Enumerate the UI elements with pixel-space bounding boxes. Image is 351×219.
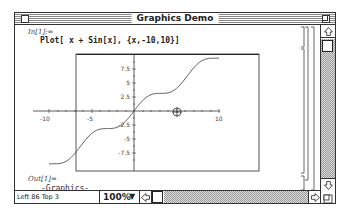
output-cell-bracket	[301, 176, 304, 190]
resize-grip-icon[interactable]	[320, 190, 335, 203]
output-label: Out[1]=	[28, 175, 57, 183]
tick-labels: -10 -5 10 7.5 5 2.5 -2.5 -5 -7.5	[40, 65, 223, 156]
zoom-level[interactable]: 100%	[103, 191, 131, 203]
arrow-up-icon[interactable]	[321, 25, 335, 38]
arrow-left-icon[interactable]	[140, 191, 152, 203]
y-tick-neg7.5: -7.5	[118, 149, 130, 156]
y-tick-5: 5	[126, 79, 130, 86]
crosshair-cursor-icon	[172, 107, 182, 117]
y-tick-neg5: -5	[124, 135, 130, 142]
x-tick-neg5: -5	[87, 115, 93, 122]
horizontal-scroll-track[interactable]	[164, 191, 308, 203]
close-box-icon[interactable]	[21, 15, 29, 23]
vertical-scroll-track[interactable]	[321, 39, 335, 178]
plot-graphic[interactable]: -10 -5 10 7.5 5 2.5 -2.5 -5 -7.5	[15, 25, 320, 192]
graphics-demo-window: Graphics Demo In[1]:= Plot[ x + Sin[x], …	[14, 12, 336, 204]
vertical-scroll-thumb[interactable]	[322, 40, 333, 52]
status-bar: Left 86 Top 3 100% ▼	[15, 190, 335, 203]
y-tick-7.5: 7.5	[120, 65, 130, 72]
plot-frame	[76, 54, 259, 171]
y-tick-2.5: 2.5	[120, 93, 130, 100]
input-cell-bracket	[301, 27, 304, 47]
window-title: Graphics Demo	[132, 13, 219, 24]
status-divider	[99, 191, 100, 203]
cell-brackets[interactable]	[299, 25, 319, 192]
notebook-content[interactable]: In[1]:= Plot[ x + Sin[x], {x,-10,10}]	[15, 25, 320, 192]
horizontal-scroll-thumb[interactable]	[152, 191, 163, 203]
horizontal-scrollbar[interactable]	[139, 191, 322, 203]
group-cell-bracket	[305, 27, 308, 180]
graphics-cell-bracket	[301, 49, 304, 173]
position-readout: Left 86 Top 3	[17, 192, 59, 202]
title-bar[interactable]: Graphics Demo	[15, 13, 335, 25]
x-tick-neg10: -10	[40, 115, 50, 122]
x-tick-10: 10	[215, 115, 223, 122]
zoom-dropdown-chevron-icon[interactable]: ▼	[129, 191, 135, 203]
vertical-scrollbar[interactable]	[320, 25, 335, 191]
outer-group-bracket	[311, 27, 314, 190]
zoom-box-icon[interactable]	[322, 15, 330, 23]
